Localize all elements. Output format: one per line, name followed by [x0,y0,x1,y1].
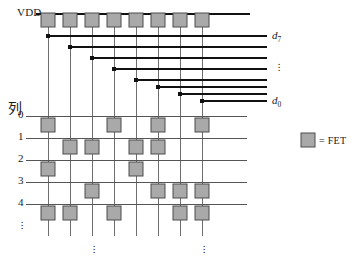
data-line-tap-d1 [178,92,182,96]
pullup-fet-3 [107,13,121,27]
data-line-tap-d3 [134,78,138,82]
data-line-tap-d4 [112,67,116,71]
legend-text: = FET [319,135,346,146]
matrix-fet-r3-c5 [151,184,165,198]
data-line-tap-d5 [90,56,94,60]
matrix-fet-r1-c2 [85,140,99,154]
matrix-fet-r0-c7 [195,118,209,132]
matrix-fet-r2-c0 [41,162,55,176]
pullup-fet-5 [151,13,165,27]
pullup-fet-1 [63,13,77,27]
wire-layer [26,14,267,236]
vdd-label: VDD [17,6,41,18]
row-label-1: 1 [18,130,24,142]
pullup-fet-0 [41,13,55,27]
column-continuation-dots-left: ... [90,242,98,252]
row-label-2: 2 [18,152,24,164]
matrix-fet-r3-c6 [173,184,187,198]
data-line-label-d7: d7 [272,29,281,44]
matrix-fet-r1-c5 [151,140,165,154]
matrix-fet-r2-c4 [129,162,143,176]
matrix-fet-r0-c5 [151,118,165,132]
matrix-fet-r4-c3 [107,206,121,220]
pullup-fet-4 [129,13,143,27]
row-label-0: 0 [18,108,24,120]
data-line-tap-d0 [200,99,204,103]
diagram-canvas [0,0,358,270]
data-line-label-d0: d0 [272,94,281,109]
data-line-continuation-dots: ... [275,60,283,70]
data-line-tap-d7 [46,34,50,38]
matrix-fet-r3-c7 [195,184,209,198]
pullup-fet-2 [85,13,99,27]
column-continuation-dots-right: ... [200,242,208,252]
matrix-fet-r4-c6 [173,206,187,220]
matrix-fet-r1-c1 [63,140,77,154]
matrix-fet-r4-c0 [41,206,55,220]
data-line-tap-d2 [156,85,160,89]
pullup-fet-7 [195,13,209,27]
row-continuation-dots: ... [18,218,26,228]
data-line-d0-index: 0 [278,100,282,109]
matrix-fet-r3-c2 [85,184,99,198]
row-label-3: 3 [18,174,24,186]
matrix-fet-r4-c7 [195,206,209,220]
matrix-fet-r0-c0 [41,118,55,132]
matrix-fet-r1-c4 [129,140,143,154]
rom-array-diagram: VDD 列 0 1 2 3 4 ... d7 d0 ... ... ... = … [0,0,358,270]
data-line-d7-index: 7 [278,35,282,44]
matrix-fet-r0-c3 [107,118,121,132]
legend-fet-swatch [301,133,315,147]
row-label-4: 4 [18,196,24,208]
data-line-tap-d6 [68,45,72,49]
pullup-fet-6 [173,13,187,27]
matrix-fet-r4-c1 [63,206,77,220]
